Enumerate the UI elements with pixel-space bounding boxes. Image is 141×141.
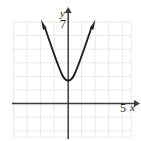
x-axis-label: x <box>130 102 135 113</box>
parabola-left-arrowhead <box>41 20 47 30</box>
grid-lines <box>14 22 132 137</box>
y-axis-tick-label: 7 <box>60 18 66 30</box>
x-axis-tick-label: 5 <box>120 102 126 114</box>
coordinate-plane <box>0 0 141 141</box>
parabola-right-arrowhead <box>90 20 96 30</box>
graph-figure: y 7 5 x <box>0 0 141 141</box>
